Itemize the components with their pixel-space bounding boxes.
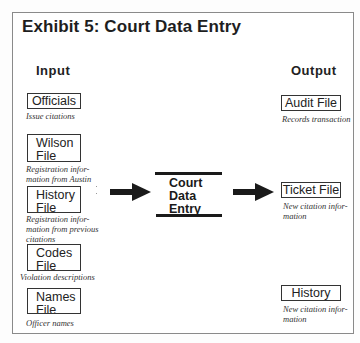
input-heading: Input: [36, 63, 70, 78]
input-caption-codes-file: Violation descriptions: [20, 272, 95, 282]
input-arrow-icon: [110, 182, 152, 202]
output-arrow-icon: [233, 182, 275, 202]
input-caption-wilson-file: Registration infor- mation from Austin: [26, 164, 91, 184]
input-caption-officials: Issue citations: [26, 111, 75, 121]
process-label: Court Data Entry: [169, 177, 202, 216]
input-box-history-file: History File: [27, 186, 81, 213]
output-box-history-file: History File: [281, 285, 341, 301]
output-caption-history-file: New citation infor- mation: [283, 304, 348, 324]
output-caption-ticket-file: New citation infor- mation: [283, 201, 348, 221]
input-box-names-file: Names File: [27, 288, 81, 314]
input-box-officials: Officials: [27, 93, 81, 109]
input-caption-history-file: Registration infor- mation from previous…: [26, 214, 99, 244]
process-bottom-rule: [156, 214, 222, 217]
input-caption-names-file: Officer names: [26, 318, 74, 328]
scan-dot: [96, 193, 97, 194]
input-box-label: Officials: [32, 94, 76, 108]
output-caption-audit-file: Records transaction: [282, 114, 350, 124]
output-box-ticket-file: Ticket File: [281, 182, 341, 198]
input-box-codes-file: Codes File: [27, 244, 81, 271]
input-box-wilson-file: Wilson File: [27, 134, 81, 162]
exhibit-title: Exhibit 5: Court Data Entry: [22, 17, 241, 37]
output-box-audit-file: Audit File: [281, 95, 341, 111]
output-heading: Output: [291, 63, 337, 78]
process-top-rule: [155, 172, 222, 175]
scan-dot: [96, 186, 97, 187]
